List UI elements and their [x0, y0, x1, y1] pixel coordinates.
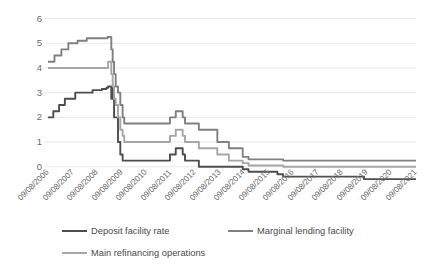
legend-item-marginal-lending-facility[interactable]: Marginal lending facility — [228, 226, 354, 236]
series-line-deposit-facility-rate — [48, 86, 416, 179]
legend-item-main-refinancing-operations[interactable]: Main refinancing operations — [62, 248, 205, 258]
legend-label: Deposit facility rate — [91, 226, 170, 236]
legend-label: Main refinancing operations — [91, 248, 205, 258]
chart-container: 0123456 09/08/200609/08/200709/08/200809… — [0, 0, 431, 278]
legend-swatch-icon — [62, 252, 87, 255]
chart-plot-area — [0, 0, 431, 278]
chart-series-layer — [48, 37, 416, 179]
series-line-main-refinancing-operations — [48, 62, 416, 167]
legend-label: Marginal lending facility — [257, 226, 354, 236]
legend-swatch-icon — [62, 230, 87, 233]
legend-swatch-icon — [228, 230, 253, 233]
legend-item-deposit-facility-rate[interactable]: Deposit facility rate — [62, 226, 170, 236]
chart-gridlines — [45, 19, 416, 167]
